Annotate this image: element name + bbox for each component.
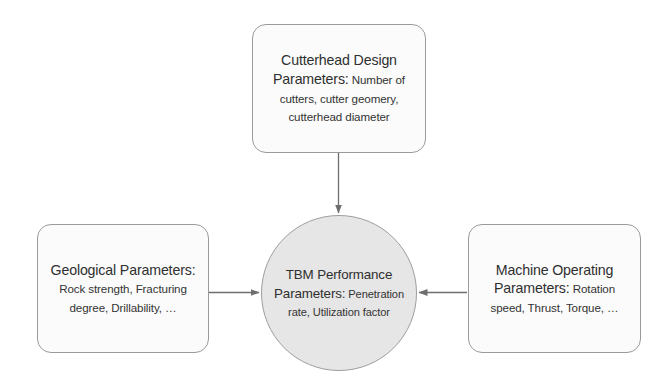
node-geological-text: Geological Parameters: Rock strength, Fr…: [47, 261, 199, 317]
node-tbm-performance-parameters[interactable]: TBM Performance Parameters: Penetration …: [261, 215, 417, 371]
node-geological-title: Geological Parameters:: [51, 262, 196, 278]
node-machine-text: Machine Operating Parameters: Rotation s…: [478, 261, 631, 317]
node-geological-body: Rock strength, Fracturing degree, Drilla…: [59, 282, 187, 314]
node-cutterhead-text: Cutterhead Design Parameters: Number of …: [262, 51, 416, 125]
node-machine-operating-parameters[interactable]: Machine Operating Parameters: Rotation s…: [468, 224, 641, 353]
node-tbm-text: TBM Performance Parameters: Penetration …: [268, 265, 410, 321]
diagram-canvas: Cutterhead Design Parameters: Number of …: [0, 0, 671, 385]
node-cutterhead-design-parameters[interactable]: Cutterhead Design Parameters: Number of …: [252, 24, 426, 153]
node-geological-parameters[interactable]: Geological Parameters: Rock strength, Fr…: [37, 224, 209, 353]
